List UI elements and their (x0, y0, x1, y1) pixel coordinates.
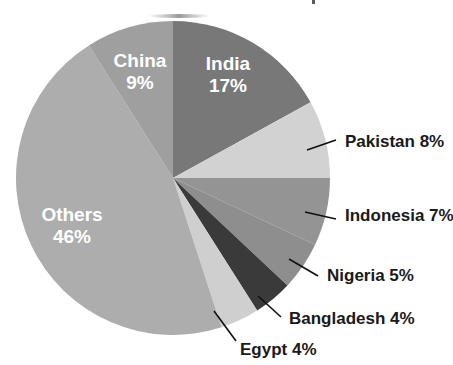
pie-chart-figure: India17%China9%Others46% Pakistan 8%Indo… (0, 0, 453, 365)
slice-label-pakistan: Pakistan 8% (345, 132, 444, 151)
slice-label-india: India17% (206, 53, 251, 96)
slice-label-egypt: Egypt 4% (240, 340, 317, 359)
slice-label-nigeria: Nigeria 5% (327, 266, 414, 285)
slice-label-indonesia: Indonesia 7% (345, 206, 453, 225)
slice-label-bangladesh: Bangladesh 4% (289, 309, 415, 328)
pie-slices-group (16, 21, 330, 335)
pie-chart-canvas: India17%China9%Others46% Pakistan 8%Indo… (0, 0, 453, 365)
